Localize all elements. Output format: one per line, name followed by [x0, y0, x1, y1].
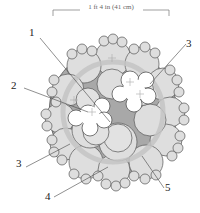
dimension-text: 1 ft 4 in (41 cm): [52, 3, 170, 11]
callout-3-bottom: 3: [16, 157, 22, 169]
callout-5: 5: [165, 181, 171, 193]
callout-2: 2: [11, 79, 17, 91]
callout-1: 1: [29, 26, 35, 38]
dimension-label: 1 ft 4 in (41 cm): [52, 3, 170, 13]
callout-3-top: 3: [186, 37, 192, 49]
callout-4: 4: [45, 190, 51, 202]
